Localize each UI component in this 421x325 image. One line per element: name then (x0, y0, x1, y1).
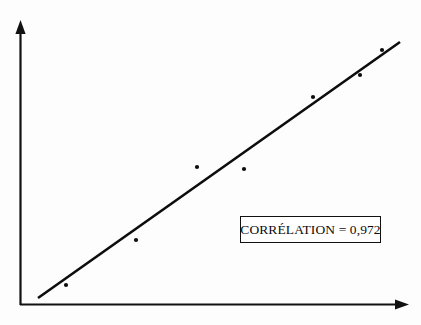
correlation-annotation-box: CORRÉLATION = 0,972 (240, 216, 381, 243)
y-axis-arrowhead-icon (15, 20, 25, 34)
data-point (195, 165, 199, 169)
data-point (311, 95, 315, 99)
plot-canvas (0, 0, 421, 325)
regression-line (38, 42, 400, 298)
y-axis (15, 20, 25, 305)
data-point (134, 238, 138, 242)
x-axis-arrowhead-icon (395, 299, 409, 309)
correlation-label: CORRÉLATION = 0,972 (240, 223, 380, 237)
correlation-scatter-figure: CORRÉLATION = 0,972 (0, 0, 421, 325)
data-point (380, 48, 384, 52)
data-point (358, 73, 362, 77)
data-point (242, 167, 246, 171)
data-point (64, 283, 68, 287)
x-axis (20, 299, 409, 309)
